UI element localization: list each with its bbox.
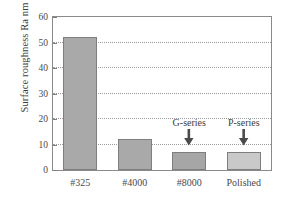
annotation: P-series — [228, 117, 260, 146]
y-tick-label: 40 — [39, 63, 49, 73]
y-tick-label: 10 — [39, 140, 49, 150]
x-tick-label: #4000 — [122, 177, 147, 188]
bar — [172, 152, 206, 170]
bar-group: #325 — [53, 17, 108, 170]
y-tick-label: 60 — [39, 12, 49, 22]
bar — [63, 37, 97, 170]
bar — [227, 152, 261, 170]
down-arrow-icon — [238, 129, 249, 146]
bar-group: Polished — [217, 17, 272, 170]
y-axis-title: Surface roughness Ra nm — [19, 0, 30, 128]
y-tick-label: 50 — [39, 38, 49, 48]
bar-chart: Surface roughness Ra nm 0102030405060 #3… — [0, 0, 291, 197]
down-arrow-icon — [184, 129, 195, 146]
bars-layer: #325#4000#8000Polished — [53, 17, 271, 170]
y-tick-label: 20 — [39, 114, 49, 124]
bar-group: #4000 — [108, 17, 163, 170]
y-tick-label: 30 — [39, 89, 49, 99]
annotation-label: P-series — [228, 117, 260, 128]
x-tick-label: Polished — [227, 177, 261, 188]
y-tick-mark — [53, 170, 57, 171]
annotation-label: G-series — [173, 117, 206, 128]
x-tick-label: #325 — [70, 177, 90, 188]
y-tick-label: 0 — [43, 165, 48, 175]
bar-group: #8000 — [162, 17, 217, 170]
annotation: G-series — [173, 117, 206, 146]
bar — [118, 139, 152, 170]
plot-area: 0102030405060 #325#4000#8000Polished G-s… — [52, 16, 272, 171]
x-tick-label: #8000 — [177, 177, 202, 188]
